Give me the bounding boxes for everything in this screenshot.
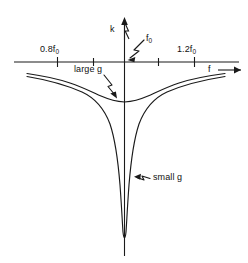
x-axis-arrow-icon xyxy=(218,67,241,74)
tick-0-main: 0.8f xyxy=(40,44,55,54)
y-axis-arrow-icon xyxy=(121,17,129,40)
curve-small-g xyxy=(27,77,225,238)
small-g-leader-arrow-icon xyxy=(134,174,150,180)
x-tick-label-0.8f0: 0.8f0 xyxy=(40,44,59,54)
x-tick-label-1.2f0: 1.2f0 xyxy=(177,44,196,54)
large-g-annotation-label: large g xyxy=(74,64,102,74)
plot-canvas xyxy=(0,0,248,263)
x-axis-label: f xyxy=(208,64,211,74)
tick-0-sub: 0 xyxy=(55,48,59,55)
curve-large-g xyxy=(27,74,225,103)
large-g-leader-arrow-icon xyxy=(104,75,117,99)
f0-leader-arrow-icon xyxy=(128,40,145,62)
f0-label-sub: 0 xyxy=(149,37,153,44)
annotation-arrows xyxy=(104,40,150,180)
curve-group xyxy=(27,74,225,238)
lorentzian-dip-figure: k f0 0.8f0 1.2f0 f large g small g xyxy=(0,0,248,263)
y-axis-label: k xyxy=(110,24,115,34)
small-g-annotation-label: small g xyxy=(153,172,182,182)
tick-4-main: 1.2f xyxy=(177,44,192,54)
f0-annotation-label: f0 xyxy=(146,33,152,43)
tick-4-sub: 0 xyxy=(192,48,196,55)
